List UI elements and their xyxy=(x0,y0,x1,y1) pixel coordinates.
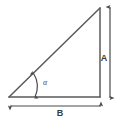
triangle-hypotenuse xyxy=(9,8,100,97)
figure-canvas: A B α xyxy=(0,0,120,120)
label-side-a: A xyxy=(101,53,108,63)
triangle-diagram: A B α xyxy=(0,0,120,120)
label-angle-alpha: α xyxy=(43,78,48,87)
label-side-b: B xyxy=(57,108,64,118)
angle-arc-alpha xyxy=(33,73,37,97)
